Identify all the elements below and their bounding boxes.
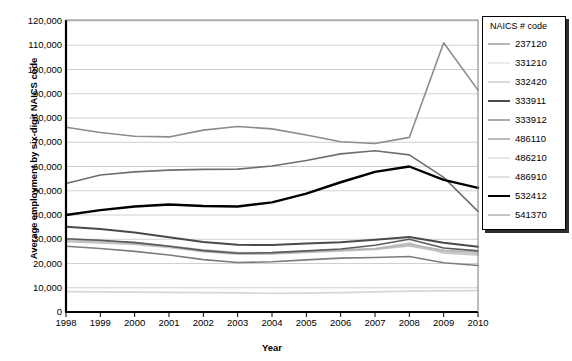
legend-item-541370[interactable]: 541370	[483, 205, 565, 224]
legend-line-swatch	[488, 96, 510, 106]
legend-item-237120[interactable]: 237120	[483, 34, 565, 53]
legend-line-swatch	[488, 153, 510, 163]
legend-line-swatch	[488, 210, 510, 220]
legend-line-swatch	[488, 77, 510, 87]
legend-line-swatch	[488, 134, 510, 144]
legend-line-swatch	[488, 172, 510, 182]
legend-item-label: 333911	[515, 95, 546, 106]
legend-item-486110[interactable]: 486110	[483, 129, 565, 148]
legend-item-486910[interactable]: 486910	[483, 167, 565, 186]
legend-item-333912[interactable]: 333912	[483, 110, 565, 129]
legend-item-label: 332420	[515, 76, 547, 87]
legend-item-label: 486210	[515, 152, 547, 163]
chart-figure: Average employment by six-digit NAICS co…	[0, 0, 572, 361]
legend-line-swatch	[488, 115, 510, 125]
legend-item-label: 486910	[515, 171, 547, 182]
legend-item-label: 331210	[515, 57, 547, 68]
legend-line-swatch	[488, 58, 510, 68]
series-lines	[66, 43, 478, 294]
legend-item-label: 486110	[515, 133, 546, 144]
legend: NAICS # code 237120331210332420333911333…	[482, 16, 566, 230]
legend-item-label: 333912	[515, 114, 547, 125]
legend-item-331210[interactable]: 331210	[483, 53, 565, 72]
legend-title: NAICS # code	[483, 21, 565, 34]
legend-line-swatch	[488, 39, 510, 49]
legend-item-label: 541370	[515, 209, 547, 220]
legend-item-333911[interactable]: 333911	[483, 91, 565, 110]
legend-item-label: 237120	[515, 38, 547, 49]
legend-entries: 2371203312103324203339113339124861104862…	[483, 34, 565, 224]
legend-item-532412[interactable]: 532412	[483, 186, 565, 205]
legend-item-label: 532412	[515, 190, 547, 201]
legend-item-332420[interactable]: 332420	[483, 72, 565, 91]
legend-item-486210[interactable]: 486210	[483, 148, 565, 167]
legend-line-swatch	[488, 191, 510, 201]
